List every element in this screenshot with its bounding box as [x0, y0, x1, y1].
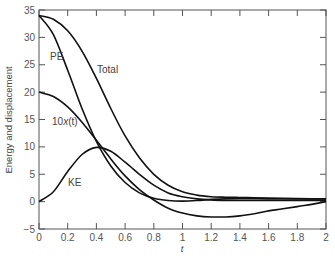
x-tick-label: 1.4	[233, 232, 247, 243]
x-tick-label: 0.4	[89, 232, 103, 243]
label-10x-arg: (t)	[68, 116, 77, 127]
y-tick-label: 0	[29, 196, 35, 207]
y-tick-label: 5	[29, 169, 35, 180]
label-10x-prefix: 10	[52, 116, 64, 127]
y-tick-labels: 35302520151050−5	[24, 5, 36, 235]
y-tick-label: 20	[24, 87, 36, 98]
x-tick-label: 0.8	[147, 232, 161, 243]
curve-pe	[39, 16, 326, 202]
x-tick-label: 1.6	[262, 232, 276, 243]
energy-displacement-chart: 00.20.40.60.811.21.41.61.82 353025201510…	[0, 0, 335, 256]
y-tick-label: 25	[24, 59, 36, 70]
label-total: Total	[97, 64, 118, 75]
x-tick-label: 1.8	[290, 232, 304, 243]
y-tick-label: −5	[24, 224, 36, 235]
curve-ke	[39, 147, 326, 201]
x-tick-labels: 00.20.40.60.811.21.41.61.82	[36, 232, 329, 243]
x-axis-title: t	[181, 243, 184, 254]
x-tick-label: 1.2	[204, 232, 218, 243]
y-axis-title: Energy and displacement	[3, 66, 14, 174]
y-tick-label: 10	[24, 141, 36, 152]
y-tick-label: 15	[24, 114, 36, 125]
label-10x: 10x(t)	[52, 116, 78, 127]
x-tick-label: 0.6	[118, 232, 132, 243]
y-tick-label: 30	[24, 32, 36, 43]
x-tick-label: 0	[36, 232, 42, 243]
x-tick-label: 2	[323, 232, 329, 243]
curves	[39, 16, 326, 218]
x-tick-label: 0.2	[61, 232, 75, 243]
y-tick-label: 35	[24, 5, 36, 16]
x-tick-label: 1	[180, 232, 186, 243]
label-pe: PE	[50, 51, 64, 62]
label-ke: KE	[68, 177, 82, 188]
